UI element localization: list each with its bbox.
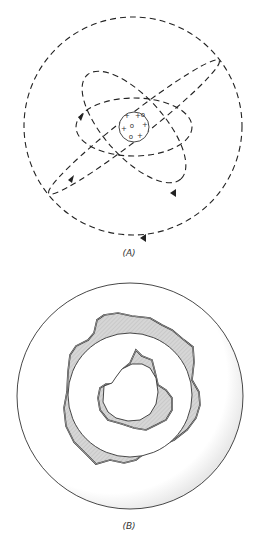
proton-symbol: +: [124, 112, 130, 120]
panel-a-caption: (A): [0, 248, 258, 258]
nucleus: + o + o + o + +: [119, 111, 149, 142]
arrow-icon: [170, 189, 176, 197]
panel-b-caption: (B): [0, 521, 258, 531]
proton-symbol: +: [137, 132, 143, 140]
panel-b-diagram: [17, 283, 243, 509]
proton-symbol: +: [142, 121, 148, 129]
neutron-symbol: o: [141, 111, 145, 119]
figure-canvas: + o + o + o + +: [0, 0, 258, 541]
arrow-icon: [68, 175, 74, 183]
neutron-symbol: o: [130, 122, 134, 130]
arrow-icon: [78, 113, 84, 121]
proton-symbol: +: [121, 125, 127, 133]
proton-symbol: +: [135, 112, 141, 120]
neutron-symbol: o: [129, 133, 133, 141]
